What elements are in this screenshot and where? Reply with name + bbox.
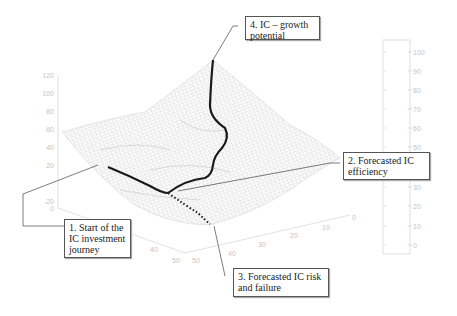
callout-risk-line2: and failure xyxy=(238,282,324,293)
svg-text:0: 0 xyxy=(413,242,417,249)
svg-text:100: 100 xyxy=(42,90,54,97)
svg-text:50: 50 xyxy=(413,144,421,151)
callout-forecasted-efficiency: 2. Forecasted IC efficiency xyxy=(343,152,430,180)
svg-text:30: 30 xyxy=(413,184,421,191)
z-axis: 120 100 80 60 40 20 -20 0 xyxy=(42,72,58,212)
svg-text:0: 0 xyxy=(352,214,356,221)
svg-text:10: 10 xyxy=(413,223,421,230)
callout-start-line1: 1. Start of the xyxy=(69,222,126,233)
svg-text:0: 0 xyxy=(50,205,54,212)
svg-text:60: 60 xyxy=(413,125,421,132)
callout-efficiency-line1: 2. Forecasted IC xyxy=(348,155,425,166)
svg-text:70: 70 xyxy=(413,106,421,113)
svg-text:20: 20 xyxy=(413,203,421,210)
svg-text:20: 20 xyxy=(46,162,54,169)
svg-text:80: 80 xyxy=(413,87,421,94)
svg-text:50: 50 xyxy=(192,257,200,264)
surface-mesh xyxy=(62,60,340,225)
svg-text:30: 30 xyxy=(258,241,266,248)
svg-text:120: 120 xyxy=(42,72,54,79)
callout-start-journey: 1. Start of the IC investment journey xyxy=(64,219,131,258)
svg-text:60: 60 xyxy=(46,126,54,133)
svg-text:100: 100 xyxy=(413,49,425,56)
callout-growth-line2: potential xyxy=(250,30,315,41)
svg-text:80: 80 xyxy=(46,108,54,115)
callout-start-line2: IC investment xyxy=(69,233,126,244)
callout-start-line3: journey xyxy=(69,244,126,255)
svg-text:40: 40 xyxy=(46,144,54,151)
callout-risk-line1: 3. Forecasted IC risk xyxy=(238,271,324,282)
svg-text:-20: -20 xyxy=(44,198,54,205)
callout-efficiency-line2: efficiency xyxy=(348,166,425,177)
callout-growth-potential: 4. IC – growth potential xyxy=(245,16,320,40)
svg-text:40: 40 xyxy=(150,246,158,253)
svg-text:20: 20 xyxy=(290,232,298,239)
svg-text:90: 90 xyxy=(413,68,421,75)
svg-text:10: 10 xyxy=(322,224,330,231)
callout-forecasted-risk: 3. Forecasted IC risk and failure xyxy=(233,268,329,297)
callout-growth-line1: 4. IC – growth xyxy=(250,19,315,30)
svg-text:40: 40 xyxy=(228,250,236,257)
colorbar: 100 90 80 70 60 50 30 20 10 0 xyxy=(383,40,425,254)
chart-container: 120 100 80 60 40 20 -20 0 40 50 50 40 30… xyxy=(0,0,457,316)
svg-text:50: 50 xyxy=(172,257,180,264)
